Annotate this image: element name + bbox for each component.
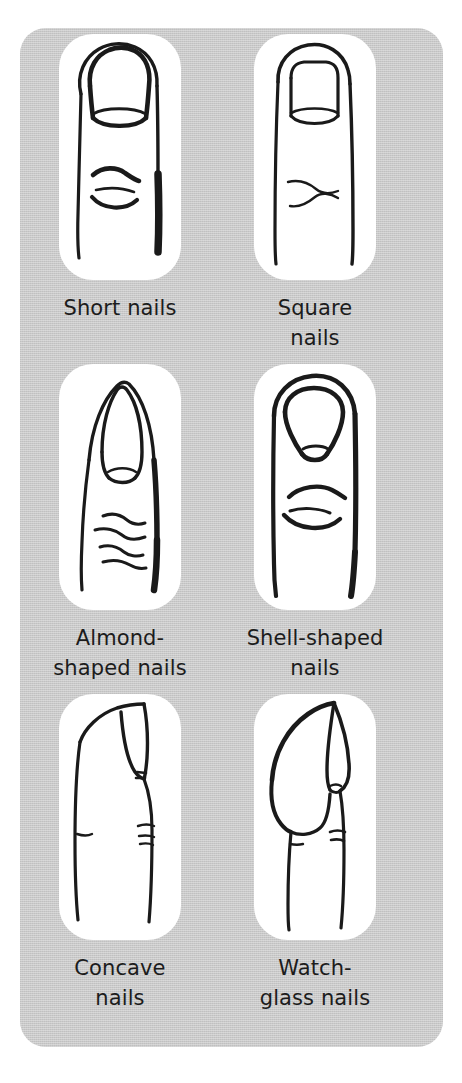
cell-square-nails: Square nails (228, 34, 402, 354)
illustration-card (254, 364, 376, 610)
caption-line: nails (228, 654, 402, 684)
finger-front-short-nail-icon (59, 34, 181, 280)
finger-front-shell-nail-icon (254, 364, 376, 610)
caption-line: shaped nails (33, 654, 207, 684)
cell-watchglass-nails: Watch- glass nails (228, 694, 402, 1014)
illustration-card (59, 364, 181, 610)
caption-line: Square (228, 294, 402, 324)
illustration-card (254, 34, 376, 280)
cell-shell-shaped-nails: Shell-shaped nails (228, 364, 402, 684)
caption-watchglass-nails: Watch- glass nails (228, 954, 402, 1014)
caption-square-nails: Square nails (228, 294, 402, 354)
caption-line: Concave (33, 954, 207, 984)
caption-line: glass nails (228, 984, 402, 1014)
caption-line: Almond- (33, 624, 207, 654)
caption-line: Watch- (228, 954, 402, 984)
caption-line: nails (228, 324, 402, 354)
cell-concave-nails: Concave nails (33, 694, 207, 1014)
cell-short-nails: Short nails (33, 34, 207, 324)
finger-front-almond-nail-icon (59, 364, 181, 610)
cell-almond-shaped-nails: Almond- shaped nails (33, 364, 207, 684)
nail-shapes-grid: Short nails (0, 0, 462, 1083)
caption-line: nails (33, 984, 207, 1014)
finger-front-square-nail-icon (254, 34, 376, 280)
illustration-card (254, 694, 376, 940)
illustration-card (59, 34, 181, 280)
caption-shell-shaped-nails: Shell-shaped nails (228, 624, 402, 684)
illustration-card (59, 694, 181, 940)
caption-concave-nails: Concave nails (33, 954, 207, 1014)
caption-line: Shell-shaped (228, 624, 402, 654)
caption-short-nails: Short nails (33, 294, 207, 324)
caption-line: Short nails (33, 294, 207, 324)
caption-almond-shaped-nails: Almond- shaped nails (33, 624, 207, 684)
finger-profile-concave-nail-icon (59, 694, 181, 940)
nail-shapes-figure: Short nails (0, 0, 462, 1083)
finger-profile-watchglass-nail-icon (254, 694, 376, 940)
